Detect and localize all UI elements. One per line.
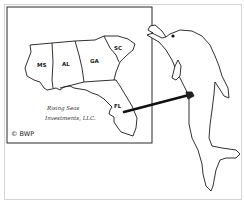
map-board <box>7 7 152 143</box>
cartoon-drawing <box>0 0 244 201</box>
copyright-label: © BWP <box>11 131 34 138</box>
company-name-line1: Rising Seas <box>47 106 79 112</box>
cartoon-illustration: MS AL GA SC FL Rising Seas Investments, … <box>0 0 244 201</box>
state-label-fl: FL <box>114 104 121 110</box>
state-label-ms: MS <box>37 63 46 69</box>
state-label-al: AL <box>62 62 70 68</box>
dolphin <box>147 25 240 191</box>
state-label-sc: SC <box>114 46 122 52</box>
company-name-line2: Investments, LLC. <box>45 116 96 122</box>
state-label-ga: GA <box>90 59 99 65</box>
